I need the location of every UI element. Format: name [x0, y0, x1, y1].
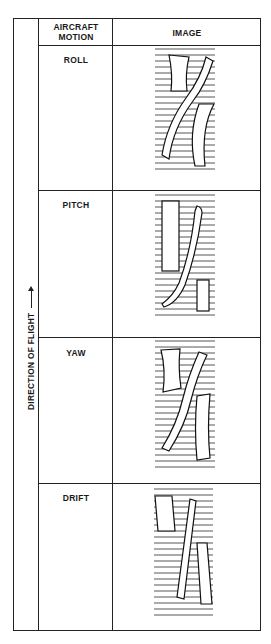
column-divider-1	[38, 18, 39, 631]
direction-of-flight-text: DIRECTION OF FLIGHT	[26, 313, 36, 410]
motion-pitch: PITCH	[40, 200, 112, 210]
roll-distortion-diagram	[113, 46, 261, 190]
motion-drift: DRIFT	[40, 493, 112, 503]
motion-yaw: YAW	[40, 348, 112, 358]
header-image: IMAGE	[113, 28, 261, 38]
direction-of-flight-label: DIRECTION OF FLIGHT	[26, 288, 36, 410]
header-aircraft-motion: AIRCRAFT MOTION	[40, 22, 112, 42]
pitch-distortion-diagram	[113, 191, 261, 337]
drift-distortion-diagram	[113, 484, 261, 630]
motion-roll: ROLL	[40, 55, 112, 65]
arrow-up-icon	[31, 288, 32, 308]
yaw-distortion-diagram	[113, 338, 261, 483]
